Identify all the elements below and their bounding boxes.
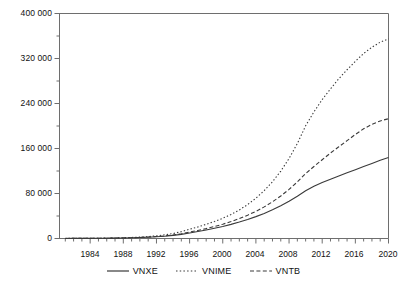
legend: VNXE VNIME VNTB [0, 266, 407, 276]
legend-label-vnxe: VNXE [133, 266, 158, 276]
series-line-vnime [65, 39, 388, 239]
series-line-vnxe [65, 158, 388, 239]
legend-item-vnxe[interactable]: VNXE [107, 266, 158, 276]
plot-area [0, 0, 407, 291]
y-tick-marks [55, 14, 60, 239]
legend-label-vnime: VNIME [202, 266, 232, 276]
legend-item-vntb[interactable]: VNTB [250, 266, 301, 276]
legend-swatch-solid-icon [107, 267, 129, 275]
chart-container: 400 000 320 000 240 000 160 000 80 000 0… [0, 0, 407, 291]
legend-swatch-dotted-icon [176, 267, 198, 275]
legend-label-vntb: VNTB [276, 266, 301, 276]
x-tick-marks [65, 239, 388, 244]
data-series-group [65, 39, 388, 239]
axes [59, 13, 389, 239]
legend-swatch-dashed-icon [250, 267, 272, 275]
series-line-vntb [65, 119, 388, 239]
legend-item-vnime[interactable]: VNIME [176, 266, 232, 276]
